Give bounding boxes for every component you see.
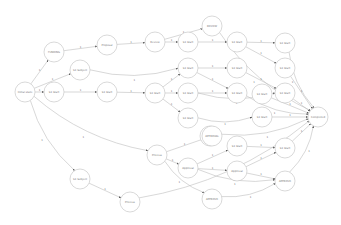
node-S[interactable]: S1 Start [227,83,247,103]
node-label: S1 Start [232,92,242,95]
edge-label: 1 [274,112,276,115]
edge-M-O [163,99,180,112]
node-M[interactable]: S1 Start [145,83,165,103]
edge-AE-AD [222,183,276,196]
edge-AC-Z [292,124,310,141]
edge-label: 1 [260,40,262,43]
edge-label: 1 [260,173,262,176]
node-J[interactable]: S1 Start [227,32,247,52]
node-label: S1 Start [280,147,290,150]
edge-label: 1 [308,150,310,153]
edge-label: 1 [133,79,135,82]
node-K[interactable]: S1 Start [178,58,198,78]
node-label: S1 Start [183,92,193,95]
node-label: REVIEW [207,25,218,28]
node-F[interactable]: S1 Start [97,82,117,102]
node-label: Proposal [101,44,112,47]
edge-label: 1 [172,159,174,162]
node-label: APPROVE [206,198,218,201]
state-diagram: 1111111111111111111111111111111111111111… [0,0,341,225]
node-L[interactable]: S1 Start [227,58,247,78]
node-label: Initial state [18,91,33,94]
node-N[interactable]: S1 Start [178,83,198,103]
node-label: S1 Start [280,67,290,70]
edge-label: 1 [212,78,214,81]
edge-label: 1 [260,144,262,147]
edge-label: 1 [171,103,173,106]
node-AB[interactable]: Approval [227,161,247,181]
edge-label: 1 [212,39,214,42]
node-B[interactable]: FUNDING [44,42,64,62]
edge-C-K [90,68,178,75]
node-label: S1 Start [280,42,290,45]
edge-label: 1 [289,103,291,106]
node-T[interactable]: S1 Start [252,84,272,104]
node-A[interactable]: Initial state [15,82,35,102]
node-I[interactable]: S1 Start [178,32,198,52]
edge-W-X [166,139,202,151]
node-AA[interactable]: S1 Start [227,136,247,156]
node-label: FUNDING [48,51,60,54]
node-U[interactable]: S1 Start [275,83,295,103]
edge-label: 1 [83,136,85,139]
edge-label: 1 [171,90,173,93]
node-G[interactable]: Review [145,32,165,52]
node-E[interactable]: Proposal [97,35,117,55]
node-Q[interactable]: S1 Start [275,33,295,53]
edge-label: 1 [224,123,226,126]
node-label: Review [150,41,160,44]
node-label: S1 Start [183,41,193,44]
node-label: APPROVAL [205,135,219,138]
node-Y[interactable]: Approval [178,158,198,178]
node-label: S1 Start [232,145,242,148]
edge-Y-AA [197,150,228,164]
node-label: S1 Start [183,67,193,70]
edge-label: 1 [212,90,214,93]
edge-label: 1 [289,114,291,117]
node-label: APPROVE [279,180,291,183]
edge-label: 1 [80,46,82,49]
node-V[interactable]: S1 Start [252,107,272,127]
edge-label: 1 [234,183,236,186]
edge-label: 1 [130,90,132,93]
nodes-layer: Initial stateFUNDINGS1 SubjectS1 StartPr… [15,16,328,212]
edge-A-W [34,96,148,150]
node-Z[interactable]: Completed [308,107,328,127]
node-label: S1 Start [102,91,112,94]
node-label: S1 Start [232,41,242,44]
node-D[interactable]: S1 Start [44,82,64,102]
node-label: Approval [231,170,243,173]
node-AF[interactable]: Process [120,192,140,212]
edge-label: 1 [212,65,214,68]
edge-label: 1 [80,89,82,92]
edge-label: 1 [41,139,43,142]
node-W[interactable]: Process [147,145,167,165]
node-R[interactable]: S1 Start [275,58,295,78]
edge-label: 1 [212,167,214,170]
edge-label: 1 [104,188,106,191]
node-C[interactable]: S1 Subject [70,60,90,80]
edge-label: 1 [178,181,180,184]
node-O[interactable]: S1 Start [178,108,198,128]
node-AD[interactable]: APPROVE [275,171,295,191]
node-H[interactable]: REVIEW [202,16,222,36]
edge-M-K [163,74,180,87]
node-X[interactable]: APPROVAL [202,126,222,146]
edge-AG-AF [89,183,121,198]
edge-J-R [246,47,276,63]
node-label: S1 Start [232,67,242,70]
node-label: S1 Subject [73,178,87,181]
node-label: Process [125,201,135,204]
node-AC[interactable]: S1 Start [275,138,295,158]
edge-K-S [197,73,228,89]
node-AE[interactable]: APPROVE [202,189,222,209]
node-AG[interactable]: S1 Subject [70,169,90,189]
node-label: S1 Start [49,91,59,94]
node-label: Process [152,154,162,157]
edge-A-B [31,60,48,84]
node-label: S1 Subject [73,69,87,72]
edge-O-V [198,117,252,122]
edge-label: 1 [266,136,268,139]
edge-label: 1 [250,196,252,199]
edge-label: 1 [130,41,132,44]
